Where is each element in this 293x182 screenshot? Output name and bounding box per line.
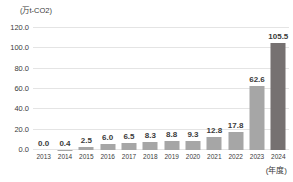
x-axis-tick-label: 2013 (36, 152, 50, 161)
bar-slot: 6.0 (97, 28, 118, 150)
x-axis-tick-label: 2021 (207, 152, 221, 161)
bar-value-label: 9.3 (187, 130, 198, 139)
bar-slot: 62.6 (246, 28, 267, 150)
x-axis-tick-label: 2018 (143, 152, 157, 161)
bar[interactable] (271, 43, 286, 150)
plot-area: 0.00.42.56.06.58.38.89.312.817.862.6105.… (33, 28, 289, 150)
x-axis-tick-label: 2019 (164, 152, 178, 161)
bar-value-label: 0.0 (38, 139, 49, 148)
y-axis-tick-label: 40.0 (14, 105, 29, 113)
bar[interactable] (79, 147, 94, 150)
x-axis-unit-label: (年度) (266, 166, 287, 176)
bar-value-label: 12.8 (207, 126, 223, 135)
bar[interactable] (121, 143, 136, 150)
bar[interactable] (164, 141, 179, 150)
bar-slot: 8.3 (140, 28, 161, 150)
y-axis-tick-label: 100.0 (10, 44, 29, 52)
bar[interactable] (185, 141, 200, 150)
bar-slot: 0.0 (33, 28, 54, 150)
bar-slot: 0.4 (54, 28, 75, 150)
bar-value-label: 8.8 (166, 130, 177, 139)
x-axis-tick-label: 2020 (186, 152, 200, 161)
x-axis-tick-label: 2015 (79, 152, 93, 161)
y-axis-tick-label: 0.0 (19, 146, 29, 154)
x-axis-tick-label: 2024 (271, 152, 285, 161)
bar[interactable] (249, 86, 264, 150)
bar-value-label: 6.0 (102, 133, 113, 142)
x-axis-tick-label: 2022 (228, 152, 242, 161)
bar-value-label: 2.5 (81, 136, 92, 145)
bar-value-label: 6.5 (123, 132, 134, 141)
bar-chart: (万t-CO2) 0.020.040.060.080.0100.0120.0 0… (0, 0, 293, 182)
x-axis-tick-label: 2016 (100, 152, 114, 161)
bar-value-label: 0.4 (59, 139, 70, 148)
bar[interactable] (143, 142, 158, 150)
bar-slot: 9.3 (182, 28, 203, 150)
x-axis-tick-label: 2023 (250, 152, 264, 161)
bar-slot: 12.8 (204, 28, 225, 150)
bar[interactable] (228, 132, 243, 150)
bar-slot: 105.5 (268, 28, 289, 150)
bar-slot: 17.8 (225, 28, 246, 150)
bar-slot: 2.5 (76, 28, 97, 150)
bar[interactable] (100, 144, 115, 150)
bar-value-label: 62.6 (249, 75, 265, 84)
bar-slot: 6.5 (118, 28, 139, 150)
bar-slot: 8.8 (161, 28, 182, 150)
bar[interactable] (207, 137, 222, 150)
y-axis-tick-label: 80.0 (14, 65, 29, 73)
y-axis-tick-label: 20.0 (14, 126, 29, 134)
bar-value-label: 105.5 (268, 32, 288, 41)
y-axis-tick-labels: 0.020.040.060.080.0100.0120.0 (0, 0, 31, 182)
x-axis-tick-label: 2014 (58, 152, 72, 161)
x-axis-tick-label: 2017 (122, 152, 136, 161)
bar-value-label: 17.8 (228, 121, 244, 130)
bar-value-label: 8.3 (145, 131, 156, 140)
y-axis-tick-label: 60.0 (14, 85, 29, 93)
x-axis-tick-labels: 2013201420152016201720182019202020212022… (33, 152, 289, 164)
y-axis-tick-label: 120.0 (10, 24, 29, 32)
